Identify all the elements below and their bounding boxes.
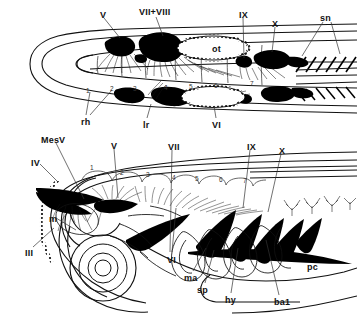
dorsal-panel-drawing: [30, 24, 357, 113]
lateral-trunk-lines: [250, 170, 357, 178]
rhombomere-number-dorsal-3: 3: [133, 86, 137, 93]
leader-rh-1: [86, 92, 90, 115]
ganglion-X-dorsal: [254, 50, 291, 69]
label-IV: IV: [31, 159, 40, 168]
leader-sn-2: [331, 22, 340, 54]
leader-V-lateral: [114, 149, 118, 198]
label-sp: sp: [197, 286, 208, 295]
label-MesV: MesV: [41, 136, 65, 145]
ganglion-V-lateral: [94, 200, 138, 214]
rhombomere-number-lateral-4: 4: [172, 175, 176, 182]
figure-drawing: [0, 0, 357, 315]
rhombomere-number-lateral-1: 1: [90, 165, 94, 172]
label-pc: pc: [307, 263, 318, 272]
label-hy: hy: [225, 296, 236, 305]
label-IX-lateral: IX: [247, 143, 256, 152]
lateral-pericardial-bottom: [232, 296, 357, 313]
rhombomere-number-lateral-7: 7: [243, 178, 247, 185]
leader-VII-lateral: [170, 150, 172, 252]
label-lr-dorsal: lr: [143, 121, 149, 130]
label-ma: ma: [184, 274, 197, 283]
label-V-lateral: V: [111, 142, 117, 151]
label-VI-dorsal: VI: [212, 121, 221, 130]
label-IX-dorsal: IX: [239, 11, 248, 20]
leader-IV: [40, 164, 58, 182]
rhombomere-number-dorsal-2: 2: [110, 86, 114, 93]
label-sn-dorsal: sn: [320, 14, 331, 23]
label-X-lateral: X: [279, 147, 285, 156]
label-VII-lateral: VII: [168, 143, 180, 152]
rhombomere-number-lateral-2: 2: [120, 170, 124, 177]
rhombomere-number-dorsal-6: 6: [214, 83, 218, 90]
label-VI-lateral: VI: [167, 256, 176, 265]
label-m-mauthner: m: [49, 215, 57, 224]
label-X-dorsal: X: [272, 20, 278, 29]
neural-tube-anterior-tip: [77, 55, 93, 73]
nerve-VII-wedge: [126, 214, 190, 251]
ganglion-V-dorsal: [105, 36, 136, 56]
leader-V-dorsal: [104, 18, 120, 38]
rhombomere-number-dorsal-4: 4: [164, 85, 168, 92]
ganglion-X-dorsal-lower: [261, 86, 295, 102]
rhombomere-number-dorsal-5: 5: [189, 84, 193, 91]
lateral-eye: [70, 235, 136, 301]
rhombomere-number-dorsal-7: 7: [250, 81, 254, 88]
rhombomere-number-lateral-6: 6: [219, 177, 223, 184]
label-VII-VIII-dorsal: VII+VIII: [139, 8, 170, 17]
label-ot-otic-vesicle: ot: [212, 45, 221, 54]
rhombomere-number-lateral-5: 5: [195, 176, 199, 183]
leader-X-dorsal: [272, 27, 275, 52]
label-rh-rhombomeres: rh: [81, 118, 90, 127]
dorsal-floorplate-line: [90, 62, 357, 69]
leader-sn-1: [302, 22, 323, 56]
label-V-dorsal: V: [100, 11, 106, 20]
anatomical-figure: VVII+VIIIIXXsnotrhlrVI1234567MesVIVVVIII…: [0, 0, 357, 315]
lateral-line-tufts: [284, 196, 356, 216]
rhombomere-number-dorsal-1: 1: [86, 88, 90, 95]
leader-rh-2: [90, 90, 112, 115]
lateral-ganglia: [36, 188, 352, 264]
rhombomere-number-lateral-3: 3: [146, 172, 150, 179]
label-III: III: [25, 249, 33, 258]
ganglion-V-dorsal-lower: [114, 88, 145, 104]
leader-X-lateral: [268, 154, 281, 212]
label-ba1: ba1: [274, 298, 290, 307]
